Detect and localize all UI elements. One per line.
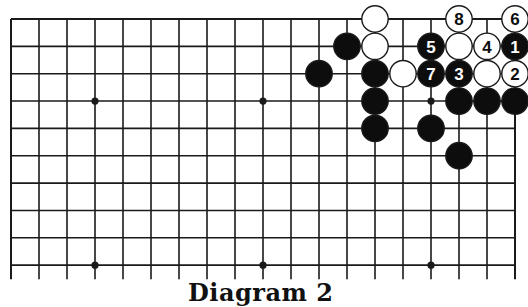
white-stone-4: 4 [474,33,500,59]
black-stone [362,115,388,141]
diagram-caption: Diagram 2 [188,278,333,307]
move-number: 4 [482,38,492,57]
black-stone-5: 5 [418,33,444,59]
star-point [259,262,266,269]
black-stone [446,143,472,169]
black-stone [362,88,388,114]
black-stone-3: 3 [446,60,472,86]
black-stone [474,88,500,114]
move-number: 5 [426,38,435,57]
black-stone-1: 1 [502,33,528,59]
move-number: 3 [454,65,463,84]
move-number: 7 [426,65,435,84]
move-number: 8 [454,10,463,29]
move-number: 6 [510,10,519,29]
white-stone-2: 2 [502,60,528,86]
white-stone [362,33,388,59]
white-stone-6: 6 [502,6,528,32]
white-stone [390,60,416,86]
star-point [91,262,98,269]
black-stone [446,88,472,114]
white-stone [474,60,500,86]
star-point [259,97,266,104]
white-stone [446,33,472,59]
board-grid [11,19,515,279]
black-stone [502,88,528,114]
star-point [91,97,98,104]
white-stone-8: 8 [446,6,472,32]
black-stone-7: 7 [418,60,444,86]
move-number: 2 [510,65,519,84]
black-stone [334,33,360,59]
stones-layer: 86541732 [306,6,528,169]
black-stone [306,60,332,86]
black-stone [362,60,388,86]
move-number: 1 [510,38,519,57]
star-point [427,97,434,104]
white-stone [362,6,388,32]
black-stone [418,115,444,141]
star-point [427,262,434,269]
